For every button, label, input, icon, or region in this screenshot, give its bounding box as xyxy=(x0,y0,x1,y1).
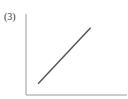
chart xyxy=(0,0,128,99)
series-line-0 xyxy=(38,28,91,84)
series-layer xyxy=(38,28,91,84)
